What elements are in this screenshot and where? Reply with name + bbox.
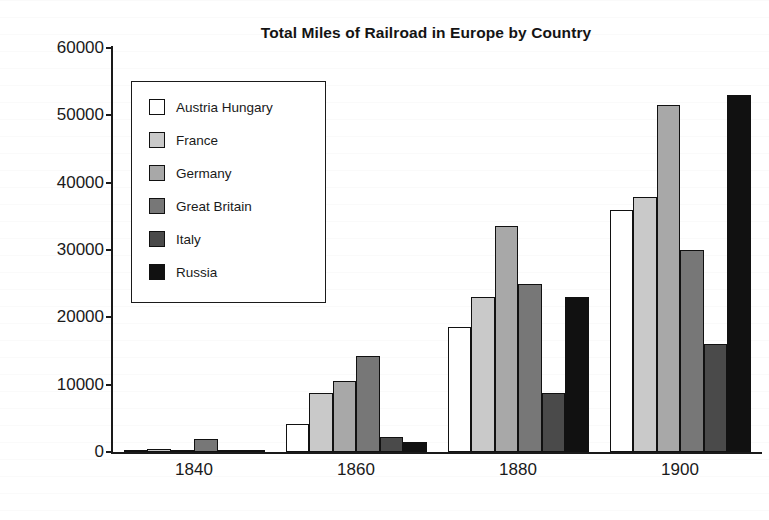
x-axis-tick-label: 1900 — [620, 460, 740, 480]
bar — [680, 250, 704, 452]
x-axis-tick-label: 1860 — [296, 460, 416, 480]
bar-group — [448, 48, 589, 452]
legend-swatch-icon — [149, 231, 165, 247]
bar — [448, 327, 472, 452]
legend-item[interactable]: Germany — [149, 164, 232, 182]
bar — [704, 344, 728, 452]
y-axis-tick-label: 30000 — [12, 240, 104, 260]
bar — [403, 442, 427, 452]
legend-item[interactable]: France — [149, 131, 218, 149]
legend-item-label: France — [176, 133, 218, 148]
y-axis-tick-mark — [106, 384, 113, 386]
legend-item-label: Great Britain — [176, 199, 252, 214]
bar — [727, 95, 751, 452]
legend-item-label: Germany — [176, 166, 232, 181]
bar — [356, 356, 380, 452]
chart-title: Total Miles of Railroad in Europe by Cou… — [186, 24, 666, 42]
x-axis-tick-label: 1840 — [134, 460, 254, 480]
bar — [147, 449, 171, 452]
legend-item-label: Italy — [176, 232, 201, 247]
legend-item[interactable]: Russia — [149, 263, 217, 281]
legend-swatch-icon — [149, 198, 165, 214]
legend-swatch-icon — [149, 99, 165, 115]
bar — [218, 450, 242, 452]
y-axis-tick-label: 50000 — [12, 105, 104, 125]
bar — [542, 393, 566, 452]
bar — [633, 197, 657, 452]
bar — [194, 439, 218, 452]
bar — [286, 424, 310, 452]
x-axis-tick-label: 1880 — [458, 460, 578, 480]
chart-legend: Austria HungaryFranceGermanyGreat Britai… — [131, 81, 326, 303]
y-axis-tick-label: 0 — [12, 442, 104, 462]
y-axis-tick-mark — [106, 47, 113, 49]
y-axis-tick-label: 60000 — [12, 38, 104, 58]
y-axis-tick-label: 40000 — [12, 173, 104, 193]
y-axis-tick-mark — [106, 316, 113, 318]
bar — [565, 297, 589, 452]
bar — [309, 393, 333, 452]
y-axis-tick-label: 10000 — [12, 375, 104, 395]
legend-swatch-icon — [149, 264, 165, 280]
bar — [124, 450, 148, 452]
y-axis-tick-mark — [106, 182, 113, 184]
legend-item[interactable]: Italy — [149, 230, 201, 248]
legend-item[interactable]: Austria Hungary — [149, 98, 273, 116]
bar — [518, 284, 542, 452]
legend-swatch-icon — [149, 132, 165, 148]
bar — [333, 381, 357, 452]
bar — [380, 437, 404, 452]
y-axis-tick-mark — [106, 451, 113, 453]
y-axis-tick-label: 20000 — [12, 307, 104, 327]
bar — [471, 297, 495, 452]
bar — [171, 450, 195, 452]
y-axis-tick-mark — [106, 249, 113, 251]
bar — [495, 226, 519, 452]
bar — [657, 105, 681, 452]
legend-item[interactable]: Great Britain — [149, 197, 252, 215]
legend-swatch-icon — [149, 165, 165, 181]
bar — [610, 210, 634, 452]
railroad-bar-chart: Total Miles of Railroad in Europe by Cou… — [0, 0, 769, 520]
bar-group — [610, 48, 751, 452]
bar — [241, 450, 265, 452]
legend-item-label: Austria Hungary — [176, 100, 273, 115]
x-axis-line — [111, 452, 762, 454]
y-axis-tick-mark — [106, 114, 113, 116]
legend-item-label: Russia — [176, 265, 217, 280]
